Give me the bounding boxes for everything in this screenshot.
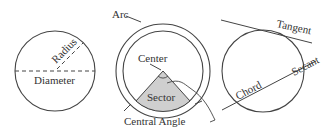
radius-label: Radius	[49, 35, 79, 65]
central-angle-label: Central Angle	[124, 115, 186, 127]
sector-label: Sector	[147, 91, 175, 103]
center-pointer	[150, 64, 161, 70]
arc-label: Arc	[112, 8, 129, 20]
secant-label: Secant	[289, 53, 321, 77]
chord-label: Chord	[233, 78, 263, 102]
arc-bracket-left	[124, 104, 131, 111]
panel-tangent-secant-chord: Tangent Secant Chord	[221, 17, 321, 112]
center-label: Center	[138, 52, 168, 64]
panel-radius-diameter: Radius Diameter	[15, 31, 95, 111]
panel-arc-sector: Arc Center Sector Central Angle	[112, 8, 215, 127]
circle-terms-diagram: Radius Diameter Arc Center Sector Centra…	[0, 0, 334, 131]
tangent-label: Tangent	[276, 17, 313, 36]
diameter-label: Diameter	[34, 74, 75, 86]
